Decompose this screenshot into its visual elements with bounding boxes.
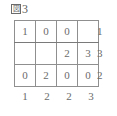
grid-cell-r1c4[interactable]: [78, 21, 99, 43]
grid-cell-r2c2[interactable]: [36, 43, 57, 65]
table-row: 0 2 0 0: [15, 65, 99, 87]
table-row: 2 3: [15, 43, 99, 65]
puzzle-grid-container: 1 0 0 2 3 0 2 0 0: [14, 20, 99, 87]
grid-cell-r3c4[interactable]: 0: [78, 65, 99, 87]
grid-cell-r2c3[interactable]: 2: [57, 43, 78, 65]
column-clue-4: 3: [80, 89, 102, 103]
row-clue-2: 3: [97, 42, 113, 64]
row-clue-1: 1: [97, 20, 113, 42]
grid-cell-r2c1[interactable]: [15, 43, 36, 65]
figure-container: 図 3 1 0 0 2 3 0 2 0 0 1: [0, 0, 117, 116]
column-clue-2: 2: [36, 89, 58, 103]
puzzle-grid: 1 0 0 2 3 0 2 0 0: [14, 20, 99, 87]
figure-number: 3: [22, 3, 28, 15]
row-clues: 1 3 2: [97, 20, 113, 86]
table-row: 1 0 0: [15, 21, 99, 43]
column-clues: 1 2 2 3: [14, 89, 102, 103]
figure-caption: 図 3: [11, 3, 28, 15]
figure-glyph-icon: 図: [11, 4, 21, 14]
grid-cell-r1c3[interactable]: 0: [57, 21, 78, 43]
grid-cell-r3c1[interactable]: 0: [15, 65, 36, 87]
grid-cell-r3c3[interactable]: 0: [57, 65, 78, 87]
column-clue-1: 1: [14, 89, 36, 103]
column-clue-3: 2: [58, 89, 80, 103]
grid-cell-r2c4[interactable]: 3: [78, 43, 99, 65]
grid-cell-r1c1[interactable]: 1: [15, 21, 36, 43]
grid-cell-r1c2[interactable]: 0: [36, 21, 57, 43]
grid-cell-r3c2[interactable]: 2: [36, 65, 57, 87]
row-clue-3: 2: [97, 64, 113, 86]
